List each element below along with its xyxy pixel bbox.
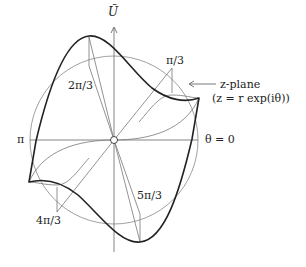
label-4pi-over-3: 4π/3: [36, 215, 61, 226]
label-5pi-over-3: 5π/3: [137, 190, 162, 201]
radial-line-5pi-over-3: [114, 140, 140, 214]
axis-label-u-tilde: Ũ: [108, 6, 118, 18]
label-2pi-over-3: 2π/3: [68, 80, 93, 91]
annotation-z-plane: z-plane: [220, 79, 260, 90]
thin-curve-left: [29, 140, 114, 182]
origin-marker: [111, 137, 118, 144]
label-theta-zero: θ = 0: [205, 134, 235, 145]
annotation-z-formula: (z = r exp(iθ)): [212, 93, 290, 104]
label-pi-over-3: π/3: [166, 55, 184, 66]
thin-curve-right: [114, 98, 199, 140]
thin-curve-upper-right: [139, 95, 199, 122]
label-pi: π: [17, 134, 24, 145]
radial-line-2pi-over-3: [89, 66, 114, 140]
